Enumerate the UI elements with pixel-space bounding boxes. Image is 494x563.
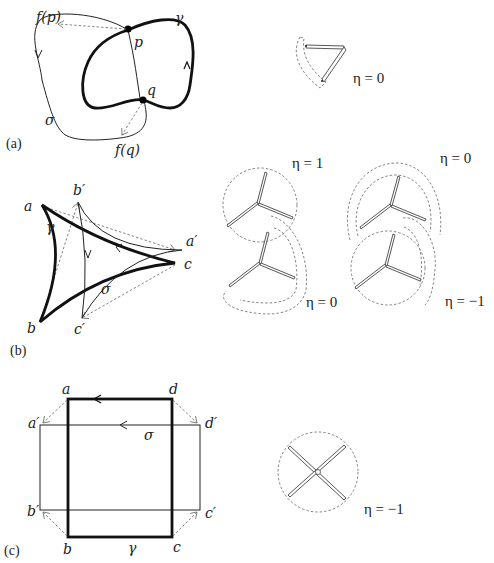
label-b-prime: b′ (73, 182, 86, 198)
inset-c-1: η = −1 (278, 432, 404, 517)
label-c-prime: c′ (74, 321, 86, 337)
label-c-prime: c′ (205, 505, 217, 521)
label-b: b (63, 541, 72, 557)
label-sigma: σ (45, 112, 55, 128)
label-b-prime: b′ (27, 503, 40, 519)
label-c: c (184, 256, 192, 272)
eta-label: η = −1 (445, 293, 485, 309)
point-q (139, 96, 146, 103)
gamma-curve (68, 399, 172, 537)
label-fq: f(q) (114, 142, 140, 158)
panel-label-b: (b) (10, 343, 27, 359)
gamma-curve (40, 205, 175, 322)
label-a: a (24, 198, 32, 214)
map-arrow-q (122, 103, 142, 135)
sigma-curve (40, 425, 200, 510)
inset-b-4: η = −1 (351, 218, 485, 309)
label-a-prime: a′ (28, 415, 40, 431)
map-arrow-p (58, 24, 126, 29)
inset-b-3: η = 0 (224, 216, 338, 314)
eta-label: η = 0 (306, 294, 337, 310)
label-a: a (62, 381, 70, 397)
eta-label: η = −1 (364, 501, 404, 517)
gamma-curve (83, 20, 193, 109)
label-d-prime: d′ (205, 415, 218, 431)
inset-b-2: η = 0 (347, 150, 471, 240)
panel-label-a: (a) (6, 136, 22, 152)
eta-label: η = 0 (440, 150, 471, 166)
label-a-prime: a′ (186, 233, 198, 249)
label-c: c (173, 539, 181, 555)
label-gamma: γ (175, 10, 184, 26)
panel-label-c: (c) (4, 543, 20, 559)
figure-canvas: f(p) p q f(q) γ σ (a) η = 0 a b′ a′ c b … (0, 0, 494, 563)
label-p: p (134, 34, 143, 50)
label-d: d (169, 381, 178, 397)
eta-label: η = 1 (292, 155, 323, 171)
label-sigma: σ (101, 281, 111, 297)
inset-a-1: η = 0 (296, 37, 384, 88)
panel-b: a b′ a′ c b c′ γ σ (b) (10, 182, 198, 359)
panel-c: a d a′ d′ b′ c′ b c γ σ (c) (4, 381, 218, 559)
label-b: b (27, 320, 36, 336)
eta-label: η = 0 (353, 70, 384, 86)
panel-a: f(p) p q f(q) γ σ (a) (6, 9, 193, 158)
label-gamma: γ (46, 219, 55, 235)
inset-b-1: η = 1 (223, 155, 323, 242)
gamma-direction-arrow (184, 62, 190, 69)
label-fp: f(p) (35, 9, 61, 25)
label-sigma: σ (144, 427, 154, 443)
label-gamma: γ (128, 540, 137, 556)
label-q: q (147, 82, 156, 98)
